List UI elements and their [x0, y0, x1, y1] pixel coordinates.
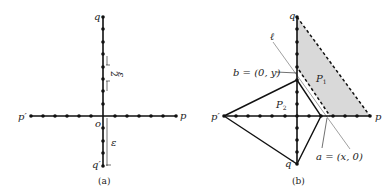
- label-ell: ℓ: [270, 31, 274, 42]
- label-q-b: q: [289, 10, 295, 21]
- diagram-canvas: ε 2 ε q q′ p p′ o (a): [0, 0, 392, 196]
- epsilon-label: ε: [111, 137, 116, 148]
- caption-a: (a): [98, 176, 110, 186]
- label-p-b: p: [375, 111, 382, 122]
- label-b-point: b = (0, y): [233, 67, 280, 78]
- figure-a: ε 2 ε q q′ p p′ o (a): [18, 11, 187, 186]
- label-p-prime-a: p′: [18, 111, 27, 122]
- leader-a: [322, 118, 327, 148]
- label-p-a: p: [180, 110, 187, 121]
- label-p-prime-b: p′: [211, 111, 220, 122]
- region-P2-outline: [224, 80, 321, 164]
- half-epsilon-den: 2: [109, 71, 119, 77]
- label-q-prime-b: q′: [285, 158, 294, 169]
- figure-b: q q′ p p′ ℓ b = (0, y) a = (x, 0) P1 P2 …: [211, 10, 382, 186]
- label-origin-a: o: [95, 118, 101, 129]
- caption-b: (b): [292, 176, 305, 186]
- label-a-point: a = (x, 0): [316, 151, 363, 162]
- label-P2-sub: 2: [283, 104, 287, 111]
- label-q-prime-a: q′: [92, 159, 101, 170]
- label-q-a: q: [94, 11, 100, 22]
- label-P2: P2: [275, 99, 287, 111]
- label-P1-sub: 1: [323, 78, 327, 85]
